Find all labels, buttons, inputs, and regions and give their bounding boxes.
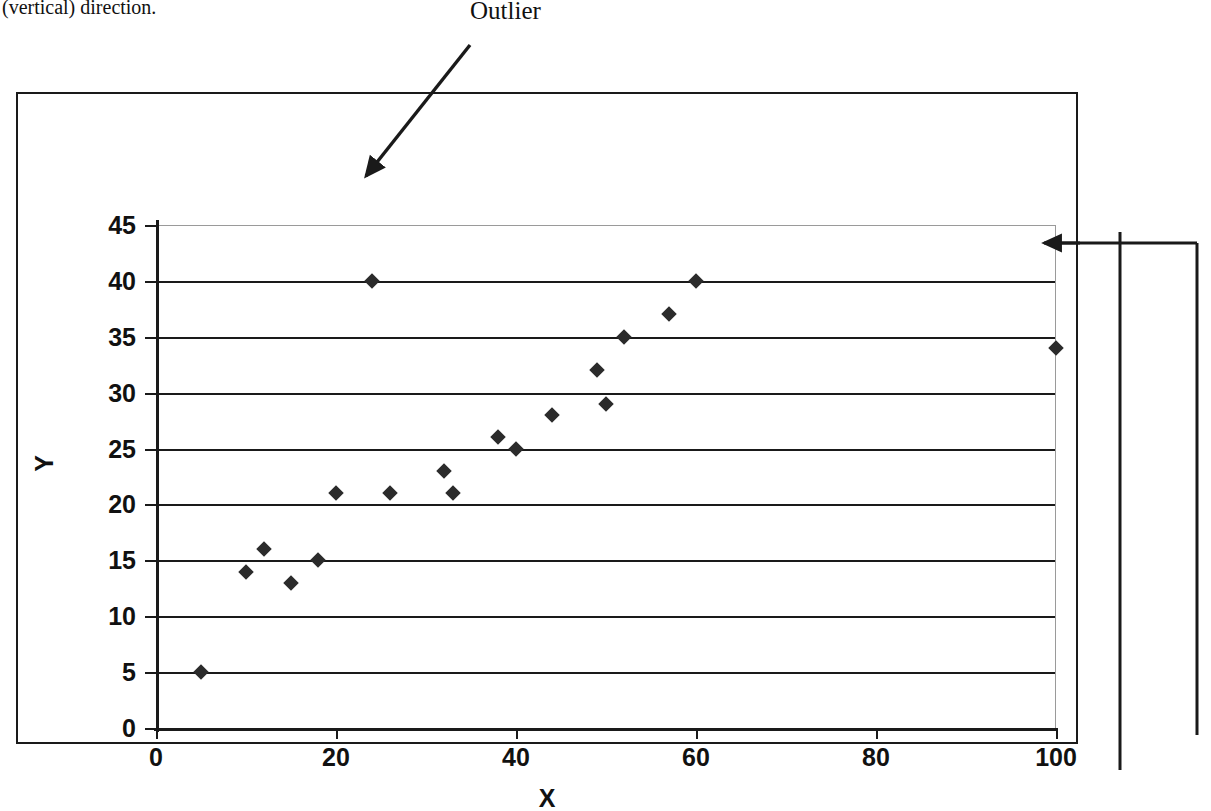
y-tick-5 [145,672,156,674]
outlier-annotation-label: Outlier [470,0,541,26]
gridline-y-15 [156,560,1056,562]
x-tick-label-0: 0 [116,743,196,772]
gridline-y-20 [156,504,1056,506]
gridline-y-45 [156,225,1056,226]
gridline-y-25 [156,449,1056,451]
data-point [310,553,326,569]
data-point [661,307,677,323]
x-tick-40 [516,728,518,739]
x-tick-20 [336,728,338,739]
data-point [688,273,704,289]
data-point [238,564,254,580]
y-tick-20 [145,504,156,506]
caption-text: (vertical) direction. [2,0,156,20]
x-tick-label-100: 100 [1016,743,1096,772]
gridline-y-30 [156,393,1056,395]
gridline-y-5 [156,672,1056,674]
data-point [598,396,614,412]
x-axis-line [154,728,1058,731]
y-tick-label-25: 25 [78,435,136,464]
y-tick-15 [145,560,156,562]
right-callout-line [1060,243,1197,735]
y-tick-label-45: 45 [78,211,136,240]
data-point [544,407,560,423]
y-axis-title: Y [30,455,59,472]
y-tick-45 [145,225,156,227]
data-point [616,329,632,345]
y-tick-label-5: 5 [78,658,136,687]
y-tick-25 [145,449,156,451]
data-point [328,485,344,501]
x-tick-60 [696,728,698,739]
y-tick-label-10: 10 [78,602,136,631]
plot-area [156,225,1056,728]
data-point [364,273,380,289]
chart-frame: Y X 051015202530354045020406080100 [16,92,1078,744]
data-point [256,541,272,557]
x-tick-label-80: 80 [836,743,916,772]
y-tick-label-15: 15 [78,546,136,575]
x-tick-0 [156,728,158,739]
y-tick-10 [145,616,156,618]
y-tick-label-0: 0 [78,714,136,743]
y-tick-label-20: 20 [78,490,136,519]
data-point [589,363,605,379]
y-tick-label-35: 35 [78,323,136,352]
x-tick-100 [1056,728,1058,739]
y-axis-line [156,220,159,732]
plot-right-edge [1055,225,1056,728]
data-point [1048,340,1064,356]
x-tick-label-40: 40 [476,743,556,772]
data-point [193,664,209,680]
data-point [445,485,461,501]
y-tick-40 [145,281,156,283]
gridline-y-40 [156,281,1056,283]
x-tick-label-60: 60 [656,743,736,772]
data-point [283,575,299,591]
data-point [490,430,506,446]
x-axis-title: X [18,784,1076,811]
data-point [508,441,524,457]
data-point [436,463,452,479]
y-tick-0 [145,728,156,730]
y-tick-label-40: 40 [78,267,136,296]
data-point [382,485,398,501]
x-tick-label-20: 20 [296,743,376,772]
y-tick-label-30: 30 [78,379,136,408]
y-tick-30 [145,393,156,395]
gridline-y-10 [156,616,1056,618]
gridline-y-35 [156,337,1056,339]
y-tick-35 [145,337,156,339]
x-tick-80 [876,728,878,739]
